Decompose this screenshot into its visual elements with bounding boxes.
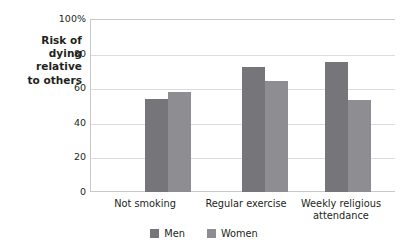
y-axis-title-line-3: relative [4, 60, 82, 73]
x-label-regular-exercise-line-1: Regular exercise [198, 198, 294, 210]
bar-group-weekly-religious-attendance [325, 19, 371, 192]
x-label-weekly-religious-attendance-line-2: attendance [289, 210, 393, 222]
y-tick-label-60: 60 [42, 83, 86, 93]
bar-men-weekly-religious-attendance[interactable] [325, 62, 348, 192]
y-tick-label-80: 80 [42, 49, 86, 59]
x-label-not-smoking: Not smoking [105, 198, 185, 210]
bar-men-regular-exercise[interactable] [242, 67, 265, 192]
y-tick-label-0: 0 [42, 187, 86, 197]
y-axis-title: Risk of dying relative to others [4, 34, 82, 87]
bar-women-not-smoking[interactable] [168, 92, 191, 192]
legend-swatch-women-icon [207, 229, 216, 238]
chart-legend: Men Women [0, 228, 408, 239]
x-label-not-smoking-line-1: Not smoking [105, 198, 185, 210]
y-tick-label-20: 20 [42, 152, 86, 162]
legend-swatch-men-icon [150, 229, 159, 238]
bar-group-regular-exercise [242, 19, 288, 192]
legend-item-women[interactable]: Women [207, 228, 258, 239]
bars-layer [90, 19, 395, 192]
y-axis-title-line-1: Risk of [4, 34, 82, 47]
bar-men-not-smoking[interactable] [145, 99, 168, 192]
legend-label-women: Women [221, 228, 258, 239]
x-label-weekly-religious-attendance: Weekly religious attendance [289, 198, 393, 223]
legend-label-men: Men [164, 228, 185, 239]
x-label-weekly-religious-attendance-line-1: Weekly religious [289, 198, 393, 210]
bar-chart: Risk of dying relative to others 100% 80… [0, 0, 408, 247]
x-label-regular-exercise: Regular exercise [198, 198, 294, 210]
legend-item-men[interactable]: Men [150, 228, 185, 239]
bar-women-weekly-religious-attendance[interactable] [348, 100, 371, 192]
y-tick-label-40: 40 [42, 118, 86, 128]
bar-group-not-smoking [145, 19, 191, 192]
bar-women-regular-exercise[interactable] [265, 81, 288, 192]
y-tick-label-100: 100% [42, 14, 86, 24]
